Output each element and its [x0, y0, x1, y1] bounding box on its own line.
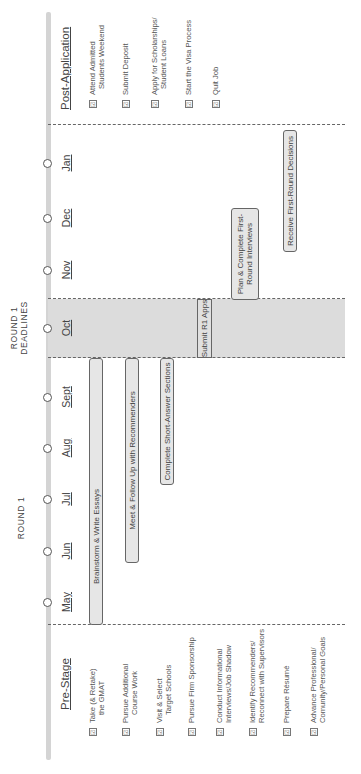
month-marker-icon	[43, 214, 52, 223]
month-marker-icon	[43, 495, 52, 504]
task-label: Complete Short-Answer Sections	[163, 363, 172, 481]
post-application-item: ☑Start the Visa Process	[184, 20, 193, 108]
month-label-may: May	[60, 592, 72, 612]
month-marker-icon	[43, 444, 52, 453]
pre-stage-item: ☑Conduct InformationalInterviews/Job Sha…	[215, 645, 233, 736]
month-label-jan: Jan	[60, 155, 72, 172]
checkbox-checked-icon: ☑	[310, 728, 318, 736]
post-application-item: ☑Apply for Scholarships/Student Loans	[150, 17, 168, 108]
month-label-sept: Sept	[60, 386, 72, 408]
task-bar-first-round-decisions: Receive First-Round Decisions	[283, 130, 297, 252]
post-application-title: Post-Application	[59, 27, 71, 110]
month-label-aug: Aug	[60, 439, 72, 458]
checkbox-checked-icon: ☑	[89, 728, 97, 736]
checkbox-checked-icon: ☑	[156, 728, 164, 736]
pre-stage-item: ☑Visit & SelectTarget Schools	[155, 665, 173, 736]
task-label: Submit R1 Apps	[200, 300, 209, 357]
month-marker-icon	[43, 159, 52, 168]
checkbox-checked-icon: ☑	[188, 728, 196, 736]
task-bar-submit-r1-apps: Submit R1 Apps	[197, 299, 212, 358]
task-label-line1: Plan & Complete First-	[236, 214, 245, 294]
checkbox-checked-icon: ☑	[151, 100, 159, 108]
pre-stage-item: ☑Take (& Retake)the GMAT	[88, 669, 106, 736]
checkbox-checked-icon: ☑	[212, 100, 220, 108]
post-application-item: ☑Quit Job	[211, 67, 220, 108]
month-marker-icon	[43, 393, 52, 402]
month-marker-icon	[43, 266, 52, 275]
month-label-jun: Jun	[60, 543, 72, 560]
round1-deadlines-line2: DEADLINES	[19, 301, 29, 355]
pre-stage-item: ☑Advance Professional/Comunity/Personal …	[309, 637, 327, 736]
round1-label: ROUND 1	[16, 497, 26, 539]
pre-stage-item: ☑Pursue Firm Sponsorship	[187, 637, 196, 736]
task-bar-brainstorm-essays: Brainstorm & Write Essays	[89, 358, 103, 625]
checkbox-checked-icon: ☑	[122, 100, 130, 108]
task-label-line2: Round Interviews	[245, 223, 254, 285]
checkbox-checked-icon: ☑	[283, 728, 291, 736]
month-marker-icon	[43, 598, 52, 607]
task-label: Meet & Follow Up with Recommenders	[128, 391, 137, 529]
post-application-item: ☑Submit Deposit	[121, 44, 130, 109]
post-application-divider	[48, 124, 345, 125]
round1-timeline-diagram: ROUND 1 ROUND 1 DEADLINES May Jun Jul Au…	[0, 0, 361, 774]
round1-deadlines-label: ROUND 1 DEADLINES	[9, 301, 29, 355]
pre-stage-item: ☑Prepare Résumé	[282, 666, 291, 736]
pre-stage-item: ☑Identify Recommenders/Reconnect with Su…	[248, 629, 266, 736]
checkbox-checked-icon: ☑	[122, 728, 130, 736]
task-label: Brainstorm & Write Essays	[92, 489, 101, 584]
month-label-dec: Dec	[60, 209, 72, 228]
checkbox-checked-icon: ☑	[89, 100, 97, 108]
pre-stage-item: ☑Pursue AdditionalCourse Work	[121, 664, 139, 736]
task-bar-meet-recommenders: Meet & Follow Up with Recommenders	[125, 358, 139, 563]
checkbox-checked-icon: ☑	[185, 100, 193, 108]
month-label-nov: Nov	[60, 261, 72, 280]
task-label: Receive First-Round Decisions	[286, 136, 295, 246]
task-bar-short-answer: Complete Short-Answer Sections	[160, 358, 174, 485]
task-bar-first-round-interviews: Plan & Complete First- Round Interviews	[231, 208, 259, 300]
month-label-jul: Jul	[60, 492, 72, 505]
pre-stage-title: Pre-Stage	[59, 658, 71, 710]
checkbox-checked-icon: ☑	[249, 728, 257, 736]
post-application-item: ☑Attend AdmittedStudents Weekend	[88, 25, 106, 108]
checkbox-checked-icon: ☑	[216, 728, 224, 736]
month-label-oct: Oct	[60, 320, 72, 336]
month-marker-icon	[43, 547, 52, 556]
round1-deadlines-line1: ROUND 1	[9, 301, 19, 355]
month-marker-icon	[43, 324, 52, 333]
